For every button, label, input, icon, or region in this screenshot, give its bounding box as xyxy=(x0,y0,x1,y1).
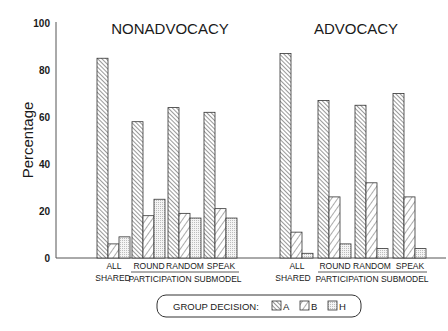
bar-h xyxy=(154,199,165,258)
legend-swatch-h xyxy=(328,301,337,310)
bar-b xyxy=(179,213,190,258)
y-tick-label: 80 xyxy=(39,65,51,76)
category-label: RANDOM xyxy=(166,261,204,271)
legend-swatch-b xyxy=(300,301,309,310)
panel-title-nonadvocacy: NONADVOCACY xyxy=(111,20,229,37)
bar-a xyxy=(204,112,215,258)
bar-b xyxy=(329,197,340,258)
legend-title: GROUP DECISION: xyxy=(173,301,259,312)
y-tick-label: 40 xyxy=(39,159,51,170)
category-label: ALL xyxy=(106,261,121,271)
legend: GROUP DECISION: A B H xyxy=(157,295,361,317)
bar-b xyxy=(291,232,302,258)
y-tick-label: 100 xyxy=(33,18,50,29)
category-label: SHARED xyxy=(95,273,130,283)
bar-h xyxy=(302,253,313,258)
category-label: SPEAK xyxy=(207,261,236,271)
bar-a xyxy=(132,122,143,258)
category-label: ROUND xyxy=(319,261,350,271)
y-tick-label: 0 xyxy=(44,253,50,264)
panel-title-advocacy: ADVOCACY xyxy=(314,20,398,37)
bar-a xyxy=(168,108,179,258)
category-labels-advocacy: ALL SHARED ROUND RANDOM SPEAK PARTICIPAT… xyxy=(275,261,429,284)
bar-b xyxy=(108,244,119,258)
bar-a xyxy=(280,54,291,258)
y-axis-label: Percentage xyxy=(19,102,36,179)
y-tick-label: 20 xyxy=(39,206,51,217)
bar-h xyxy=(415,249,426,258)
bar-b xyxy=(143,216,154,258)
grouped-bar-chart: Percentage 100 80 60 40 20 0 NONADVOCACY… xyxy=(0,0,448,331)
y-tick-label: 60 xyxy=(39,112,51,123)
category-label: RANDOM xyxy=(353,261,391,271)
y-axis: Percentage 100 80 60 40 20 0 xyxy=(19,18,56,264)
bar-b xyxy=(404,197,415,258)
bar-h xyxy=(119,237,130,258)
bar-h xyxy=(190,218,201,258)
category-label: SHARED xyxy=(275,273,310,283)
bar-a xyxy=(97,58,108,258)
bar-a xyxy=(318,101,329,258)
category-label: ROUND xyxy=(133,261,164,271)
category-label: SPEAK xyxy=(396,261,425,271)
bar-h xyxy=(340,244,351,258)
group-label: PARTICIPATION SUBMODEL xyxy=(315,274,428,284)
bar-b xyxy=(366,183,377,258)
bar-a xyxy=(393,94,404,259)
bar-b xyxy=(215,209,226,258)
bar-h xyxy=(226,218,237,258)
group-label: PARTICIPATION SUBMODEL xyxy=(128,274,241,284)
bar-a xyxy=(355,105,366,258)
legend-swatch-a xyxy=(272,301,281,310)
bar-h xyxy=(377,249,388,258)
category-labels-nonadvocacy: ALL SHARED ROUND RANDOM SPEAK PARTICIPAT… xyxy=(95,261,242,284)
legend-label-h: H xyxy=(339,301,346,312)
legend-label-b: B xyxy=(311,301,317,312)
category-label: ALL xyxy=(289,261,304,271)
legend-label-a: A xyxy=(283,301,290,312)
bars xyxy=(97,54,426,258)
